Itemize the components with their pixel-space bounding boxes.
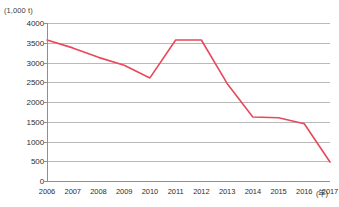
x-axis-tick-label: 2009 bbox=[116, 187, 132, 196]
y-axis-line bbox=[47, 23, 48, 181]
y-axis-tick-label: 3500 bbox=[27, 38, 44, 47]
x-axis-tick-label: 2014 bbox=[245, 187, 261, 196]
y-axis-tick-label: 1000 bbox=[27, 137, 44, 146]
x-axis-tick-label: 2013 bbox=[219, 187, 235, 196]
gridline bbox=[47, 181, 330, 182]
x-axis-tick-label: 2006 bbox=[39, 187, 55, 196]
x-axis-tick-label: 2012 bbox=[193, 187, 209, 196]
x-axis-tick-label: 2011 bbox=[168, 187, 184, 196]
x-axis-tick-label: 2017 bbox=[322, 187, 338, 196]
x-axis-tick-label: 2007 bbox=[65, 187, 81, 196]
y-axis-tick-label: 2000 bbox=[27, 98, 44, 107]
y-axis-tick-label: 2500 bbox=[27, 78, 44, 87]
x-axis-tick-label: 2008 bbox=[90, 187, 106, 196]
plot-area bbox=[47, 23, 330, 181]
y-axis-tick-label: 0 bbox=[40, 177, 44, 186]
y-axis-tick-label: 1500 bbox=[27, 117, 44, 126]
y-axis-tick-label: 500 bbox=[31, 157, 44, 166]
y-axis-tick-label: 4000 bbox=[27, 19, 44, 28]
line-chart: (1,000 t) 050010001500200025003000350040… bbox=[0, 0, 339, 207]
x-axis-tick-label: 2010 bbox=[142, 187, 158, 196]
y-axis-unit-label: (1,000 t) bbox=[4, 6, 33, 15]
series-layer bbox=[47, 23, 330, 181]
y-axis-tick-label: 3000 bbox=[27, 58, 44, 67]
series-line-primary bbox=[47, 40, 330, 162]
x-axis-unit-label: (年) bbox=[316, 187, 328, 198]
x-axis-tick-label: 2016 bbox=[296, 187, 312, 196]
x-axis-tick-label: 2015 bbox=[270, 187, 286, 196]
